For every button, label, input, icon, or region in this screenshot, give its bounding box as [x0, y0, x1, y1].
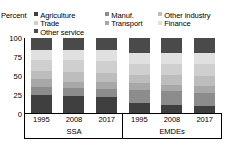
segment-finance [194, 53, 215, 64]
legend-swatch-manuf [105, 12, 109, 16]
segment-manuf [194, 93, 215, 106]
bar-ssa-2008 [63, 38, 84, 113]
group-label-ssa: SSA [25, 127, 123, 138]
segment-manuf [161, 91, 182, 105]
segment-finance [63, 50, 84, 60]
x-label-ssa-1995: 1995 [28, 115, 54, 126]
segment-manuf [63, 88, 84, 96]
y-tick-0: 0 [2, 110, 22, 119]
segment-finance [161, 53, 182, 64]
segment-transport [161, 85, 182, 92]
y-tick-50: 50 [2, 72, 22, 81]
legend-label-transport: Transport [111, 19, 142, 28]
x-axis-labels: 1995 2008 2017 1995 2008 2017 [25, 115, 221, 126]
y-tick-100: 100 [2, 34, 22, 43]
segment-agriculture [161, 105, 182, 113]
segment-other-service [96, 38, 117, 50]
bar-group-ssa [25, 38, 123, 113]
y-tick-75: 75 [2, 53, 22, 62]
legend-label-other-service: Other service [40, 28, 84, 37]
segment-trade [96, 61, 117, 73]
y-axis-tick-labels: 100 75 50 25 0 [0, 38, 22, 114]
plot-area [25, 38, 221, 113]
segment-agriculture [129, 103, 150, 113]
legend-swatch-agriculture [34, 12, 38, 16]
segment-manuf [96, 89, 117, 97]
segment-other-industry [161, 75, 182, 85]
segment-other-industry [63, 72, 84, 82]
segment-other-service [129, 38, 150, 53]
segment-transport [129, 83, 150, 90]
segment-other-industry [96, 73, 117, 83]
axis-separator-left [24, 113, 25, 138]
legend-swatch-finance [158, 21, 162, 25]
x-label-emdes-2008: 2008 [159, 115, 185, 126]
segment-agriculture [96, 97, 117, 114]
segment-trade [63, 60, 84, 72]
segment-transport [31, 79, 52, 87]
legend-swatch-other-service [34, 29, 38, 33]
x-label-emdes-1995: 1995 [126, 115, 152, 126]
legend-item-finance: Finance [158, 19, 191, 29]
axis-unit-label: Percent [1, 11, 26, 20]
axis-baseline-bottom [24, 138, 222, 139]
legend-swatch-trade [34, 21, 38, 25]
segment-trade [194, 64, 215, 76]
group-labels: SSA EMDEs [25, 127, 221, 138]
cropped-title-remnant [2, 0, 226, 8]
segment-other-service [31, 38, 52, 50]
axis-separator-right [221, 113, 222, 138]
segment-other-service [161, 38, 182, 53]
bar-emdes-2008 [161, 38, 182, 113]
segment-trade [31, 60, 52, 71]
bar-ssa-1995 [31, 38, 52, 113]
x-label-ssa-2008: 2008 [61, 115, 87, 126]
segment-other-service [194, 38, 215, 53]
legend-swatch-transport [105, 21, 109, 25]
segment-transport [194, 86, 215, 93]
segment-agriculture [194, 106, 215, 114]
segment-other-service [63, 38, 84, 50]
segment-finance [96, 50, 117, 61]
group-label-emdes: EMDEs [123, 127, 221, 138]
x-label-emdes-2017: 2017 [192, 115, 218, 126]
segment-manuf [31, 87, 52, 95]
segment-agriculture [31, 95, 52, 113]
x-axis-line [24, 113, 222, 114]
segment-other-industry [129, 75, 150, 83]
legend-label-finance: Finance [164, 19, 190, 28]
bar-group-emdes [123, 38, 221, 113]
legend-item-transport: Transport [105, 19, 143, 29]
segment-trade [129, 64, 150, 75]
legend-swatch-other-industry [158, 12, 162, 16]
segment-other-industry [194, 76, 215, 86]
segment-trade [161, 64, 182, 75]
bar-emdes-1995 [129, 38, 150, 113]
x-label-ssa-2017: 2017 [94, 115, 120, 126]
bar-ssa-2017 [96, 38, 117, 113]
legend-item-other-service: Other service [34, 27, 84, 37]
stacked-bar-chart: Percent Agriculture Trade Other service … [0, 0, 228, 147]
segment-manuf [129, 90, 150, 104]
segment-finance [31, 50, 52, 60]
segment-transport [96, 82, 117, 89]
axis-separator-middle [122, 113, 123, 138]
segment-agriculture [63, 96, 84, 113]
bar-emdes-2017 [194, 38, 215, 113]
segment-finance [129, 53, 150, 64]
y-tick-25: 25 [2, 91, 22, 100]
segment-other-industry [31, 71, 52, 79]
segment-transport [63, 82, 84, 89]
chart-legend: Percent Agriculture Trade Other service … [0, 10, 228, 36]
